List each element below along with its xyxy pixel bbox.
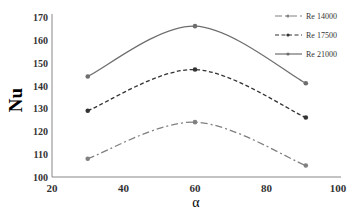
series-line xyxy=(88,26,306,83)
x-tick-label: 100 xyxy=(330,182,347,194)
x-tick-label: 20 xyxy=(47,182,59,194)
data-point xyxy=(304,163,309,168)
legend-marker xyxy=(286,14,289,17)
data-point xyxy=(193,67,198,72)
axes: 10011012013014015016017020406080100 xyxy=(33,12,347,194)
y-tick-label: 140 xyxy=(33,81,48,92)
y-tick-label: 120 xyxy=(33,126,48,137)
x-tick-label: 60 xyxy=(190,182,202,194)
y-tick-label: 130 xyxy=(33,103,48,114)
data-point xyxy=(85,156,90,161)
legend-label: Re 17500 xyxy=(306,31,337,40)
data-point xyxy=(85,74,90,79)
legend-label: Re 14000 xyxy=(306,12,337,21)
legend-marker xyxy=(286,33,289,36)
x-tick-label: 80 xyxy=(261,182,273,194)
data-point xyxy=(193,120,198,125)
y-tick-label: 160 xyxy=(33,35,48,46)
y-tick-label: 150 xyxy=(33,58,48,69)
y-tick-label: 110 xyxy=(34,149,48,160)
legend: Re 14000Re 17500Re 21000 xyxy=(275,12,337,59)
y-axis-label: Nu xyxy=(5,87,26,112)
line-chart: 10011012013014015016017020406080100 Re 1… xyxy=(0,0,355,220)
series-line xyxy=(88,70,306,118)
data-point xyxy=(304,81,309,86)
legend-marker xyxy=(286,52,289,55)
x-axis-label: α xyxy=(192,195,200,210)
y-tick-label: 170 xyxy=(33,12,48,23)
legend-label: Re 21000 xyxy=(306,50,337,59)
x-tick-label: 40 xyxy=(118,182,130,194)
data-point xyxy=(304,115,309,120)
series-line xyxy=(88,122,306,165)
data-point xyxy=(85,108,90,113)
series-group xyxy=(85,24,308,168)
data-point xyxy=(193,24,198,29)
